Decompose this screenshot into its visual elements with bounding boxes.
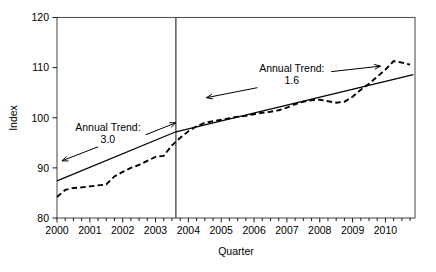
annual-trend-right-line1: Annual Trend: [259,62,324,74]
annual-trend-left-line2: 3.0 [101,133,116,145]
x-tick-label: 2009 [341,224,365,236]
x-tick-label: 2001 [78,224,102,236]
x-tick-label: 2000 [45,224,69,236]
y-tick-label: 80 [37,212,49,224]
x-tick-label: 2002 [111,224,135,236]
annual-trend-right-line2: 1.6 [285,74,300,86]
y-tick-label: 100 [31,112,49,124]
x-axis-title: Quarter [218,245,254,257]
y-axis-title: Index [7,104,19,130]
y-tick-label: 120 [31,11,49,23]
y-tick-label: 90 [37,162,49,174]
x-tick-label: 2007 [275,224,299,236]
chart-container: 2000200120022003200420052006200720082009… [0,0,436,272]
annual-trend-left-line1: Annual Trend: [75,121,140,133]
y-tick-label: 110 [32,61,49,73]
x-tick-label: 2010 [374,224,398,236]
x-tick-label: 2004 [177,224,201,236]
x-tick-label: 2005 [210,224,234,236]
x-tick-label: 2006 [242,224,266,236]
index-quarter-line-chart: 2000200120022003200420052006200720082009… [0,0,436,272]
x-axis-tick-labels: 2000200120022003200420052006200720082009… [45,224,397,236]
x-tick-label: 2003 [144,224,168,236]
x-tick-label: 2008 [308,224,332,236]
